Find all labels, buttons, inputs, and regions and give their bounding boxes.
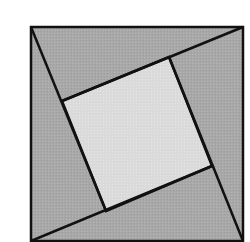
square-diagram [0, 0, 250, 242]
